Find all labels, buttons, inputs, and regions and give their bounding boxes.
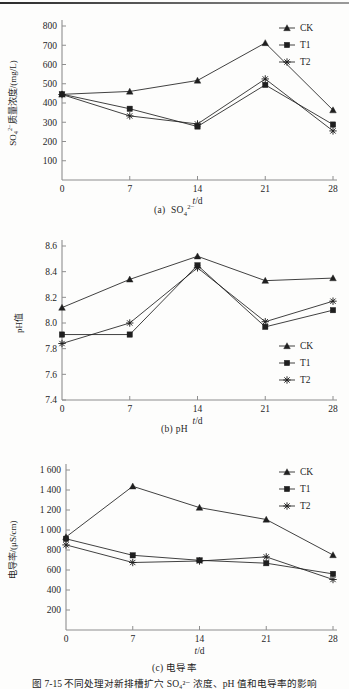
data-point-CK [59, 304, 66, 310]
data-point-T2 [126, 113, 133, 120]
legend-marker-T2 [284, 59, 291, 66]
data-point-CK [194, 77, 201, 83]
legend-label-T2: T2 [300, 375, 311, 385]
legend-marker-T2 [284, 503, 291, 510]
x-tick-label: 0 [60, 184, 65, 194]
data-point-T2 [330, 128, 337, 135]
legend-label-T1: T1 [300, 40, 311, 50]
figure-c-conductivity: 2004006008001 0001 2001 4001 60007142128… [0, 452, 349, 674]
y-tick-label: 400 [47, 585, 62, 595]
x-tick-label: 28 [328, 184, 338, 194]
data-point-T1 [127, 332, 132, 337]
legend-label-T1: T1 [300, 484, 311, 494]
data-point-T1 [263, 82, 268, 87]
figure-main-caption: 图 7-15 不同处理对新排槽扩穴 SO₄²⁻ 浓度、pH 值和电导率的影响 [0, 676, 349, 689]
scanned-figure-page: 10020030040050060070080007142128t/dSO42−… [0, 0, 349, 689]
data-point-T2 [330, 576, 337, 583]
plot-c: 2004006008001 0001 2001 4001 60007142128… [0, 452, 349, 674]
x-tick-label: 0 [60, 404, 65, 414]
legend-label-T2: T2 [300, 57, 311, 67]
chart-a-svg: 10020030040050060070080007142128t/dSO42−… [0, 8, 349, 208]
page-top-rule [0, 2, 349, 4]
y-tick-label: 300 [43, 118, 58, 128]
legend-marker-T1 [284, 360, 289, 365]
data-point-T2 [262, 76, 269, 83]
legend-marker-T1 [284, 42, 289, 47]
y-axis-label: SO42−质量浓度/(mg/L) [6, 60, 19, 146]
subcaption-a: (a) SO42− [0, 203, 349, 217]
data-point-T2 [196, 558, 203, 565]
plot-a: 10020030040050060070080007142128t/dSO42−… [0, 8, 349, 223]
data-point-T2 [129, 559, 136, 566]
chart-b-svg: 7.47.67.88.08.28.48.607142128t/dpH值CKT1T… [0, 228, 349, 428]
subcaption-b: (b) pH [0, 424, 349, 434]
x-tick-label: 14 [195, 634, 205, 644]
legend-label-CK: CK [300, 23, 313, 33]
plot-b: 7.47.67.88.08.28.48.607142128t/dpH值CKT1T… [0, 228, 349, 443]
subcaption-a-text: (a) SO42− [154, 205, 195, 215]
y-axis-label: pH值 [13, 313, 24, 333]
legend-label-T2: T2 [300, 501, 311, 511]
y-tick-label: 1 600 [40, 465, 62, 475]
x-tick-label: 14 [193, 404, 203, 414]
y-tick-label: 600 [47, 565, 62, 575]
data-point-CK [194, 253, 201, 259]
data-point-CK [262, 40, 269, 46]
x-tick-label: 28 [328, 404, 338, 414]
data-point-CK [330, 552, 337, 558]
x-tick-label: 21 [261, 184, 271, 194]
x-axis-label: t/d [194, 646, 204, 656]
y-tick-label: 8.2 [45, 293, 57, 303]
series-line-T1 [66, 539, 333, 574]
data-point-T1 [264, 561, 269, 566]
x-tick-label: 28 [328, 634, 338, 644]
y-tick-label: 100 [43, 156, 58, 166]
data-point-T2 [262, 318, 269, 325]
data-point-T2 [263, 554, 270, 561]
y-tick-label: 600 [43, 60, 58, 70]
data-point-T1 [59, 332, 64, 337]
y-tick-label: 500 [43, 79, 58, 89]
data-point-T1 [63, 536, 68, 541]
data-point-T1 [127, 106, 132, 111]
data-point-T2 [59, 340, 66, 347]
data-point-T1 [330, 307, 335, 312]
data-point-T2 [194, 121, 201, 128]
y-tick-label: 200 [47, 605, 62, 615]
data-point-CK [129, 483, 136, 489]
data-point-CK [126, 276, 133, 282]
data-point-T1 [130, 553, 135, 558]
y-tick-label: 1 000 [40, 525, 62, 535]
y-tick-label: 700 [43, 41, 58, 51]
y-tick-label: 7.8 [45, 344, 57, 354]
legend-label-CK: CK [300, 341, 313, 351]
x-tick-label: 14 [193, 184, 203, 194]
legend-marker-T2 [284, 377, 291, 384]
y-tick-label: 800 [47, 545, 62, 555]
y-tick-label: 800 [43, 21, 58, 31]
y-tick-label: 1 200 [40, 505, 62, 515]
subcaption-b-text: (b) pH [161, 424, 188, 434]
y-tick-label: 8.4 [45, 267, 57, 277]
figure-b-ph: 7.47.67.88.08.28.48.607142128t/dpH值CKT1T… [0, 228, 349, 443]
y-tick-label: 400 [43, 98, 58, 108]
y-tick-label: 8.6 [45, 241, 57, 251]
x-tick-label: 7 [130, 634, 135, 644]
y-tick-label: 200 [43, 137, 58, 147]
y-tick-label: 1 400 [40, 485, 62, 495]
series-line-T1 [62, 265, 333, 334]
y-axis-label: 电导率/(μS/cm) [7, 521, 18, 580]
legend-marker-T1 [284, 486, 289, 491]
x-tick-label: 0 [64, 634, 69, 644]
x-tick-label: 7 [127, 404, 132, 414]
x-tick-label: 7 [127, 184, 132, 194]
y-tick-label: 8.0 [45, 318, 57, 328]
subcaption-c-text: (c) 电导率 [152, 663, 197, 673]
y-tick-label: 7.6 [45, 370, 57, 380]
legend-label-T1: T1 [300, 358, 311, 368]
data-point-T2 [330, 298, 337, 305]
data-point-T1 [330, 122, 335, 127]
data-point-T2 [126, 320, 133, 327]
series-line-T2 [62, 268, 333, 344]
x-tick-label: 21 [262, 634, 272, 644]
